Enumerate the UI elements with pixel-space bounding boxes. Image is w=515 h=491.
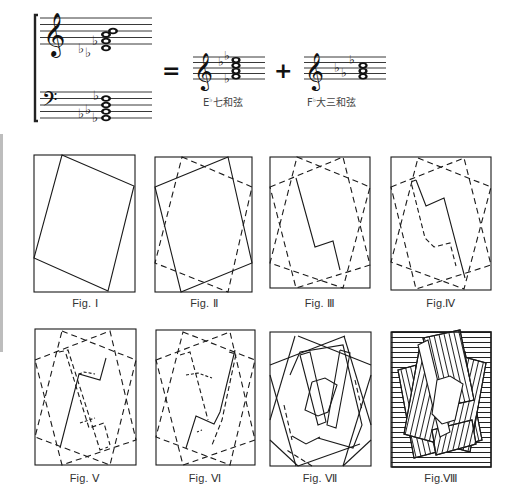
figure-3 bbox=[270, 157, 370, 288]
svg-text:♭: ♭ bbox=[224, 72, 230, 86]
plus-sign: + bbox=[274, 60, 292, 82]
figure-2 bbox=[155, 157, 252, 292]
figure-7 bbox=[270, 332, 371, 466]
treble-clef-icon: 𝄞 bbox=[43, 12, 65, 58]
svg-text:♭: ♭ bbox=[85, 45, 91, 60]
svg-text:♭: ♭ bbox=[78, 106, 84, 121]
figure-1 bbox=[34, 155, 135, 292]
svg-text:♭: ♭ bbox=[85, 102, 91, 117]
svg-text:♭: ♭ bbox=[92, 33, 98, 48]
figure-6 bbox=[156, 330, 255, 465]
svg-text:♭: ♭ bbox=[93, 88, 99, 103]
svg-text:♭: ♭ bbox=[349, 53, 355, 67]
fb-major-chord-label: F♭大三和弦 bbox=[307, 94, 356, 109]
treble-clef-icon: 𝄞 bbox=[305, 52, 324, 91]
eb7-chord-label: E♭七和弦 bbox=[203, 94, 243, 109]
equals-sign: = bbox=[162, 60, 180, 82]
bass-clef-icon: 𝄢 bbox=[42, 88, 57, 116]
eb7-chord: ♭ ♭ ♭ bbox=[218, 49, 241, 86]
svg-text:♭: ♭ bbox=[334, 61, 340, 75]
treble-clef-icon: 𝄞 bbox=[194, 52, 213, 91]
svg-text:♭: ♭ bbox=[218, 55, 224, 69]
figure-5-caption: Fig. Ⅴ bbox=[35, 472, 135, 485]
figure-8-caption: Fig.Ⅷ bbox=[391, 472, 491, 485]
page-edge-bar bbox=[0, 134, 3, 352]
svg-text:♭: ♭ bbox=[224, 49, 230, 63]
svg-text:♭: ♭ bbox=[92, 110, 98, 125]
figure-7-caption: Fig. Ⅶ bbox=[270, 472, 370, 485]
figure-1-caption: Fig. Ⅰ bbox=[35, 297, 135, 310]
figure-8 bbox=[391, 330, 491, 467]
svg-text:♭: ♭ bbox=[341, 66, 347, 80]
figure-3-caption: Fig. Ⅲ bbox=[270, 297, 370, 310]
figure-6-caption: Fig. Ⅵ bbox=[155, 472, 255, 485]
figure-2-caption: Fig. Ⅱ bbox=[154, 297, 254, 310]
figure-4 bbox=[391, 157, 491, 290]
svg-text:♭: ♭ bbox=[78, 41, 84, 56]
figure-5 bbox=[35, 329, 136, 465]
grand-staff-bracket bbox=[35, 15, 38, 121]
music-notation-header: 𝄞 𝄢 𝄞 𝄞 ♭ ♭ ♭ ♭ ♭ ♭ ♭ ♭ ♭ ♭ ♭ bbox=[0, 0, 515, 130]
figure-4-caption: Fig.Ⅳ bbox=[391, 297, 491, 310]
